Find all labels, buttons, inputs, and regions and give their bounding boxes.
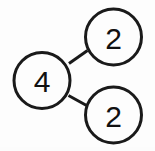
- node-root-label: 4: [34, 65, 51, 98]
- factor-tree-diagram: 4 2 2: [0, 0, 155, 151]
- connector-root-to-top-factor: [69, 51, 88, 64]
- node-factor-bottom[interactable]: 2: [86, 87, 142, 143]
- node-factor-top[interactable]: 2: [86, 9, 142, 65]
- connector-root-to-bottom-factor: [69, 96, 88, 107]
- node-factor-bottom-label: 2: [105, 100, 122, 133]
- factor-tree-svg: 4 2 2: [0, 0, 155, 151]
- node-factor-top-label: 2: [105, 22, 122, 55]
- node-root[interactable]: 4: [14, 53, 70, 109]
- bottom-edge-band: [0, 147, 155, 151]
